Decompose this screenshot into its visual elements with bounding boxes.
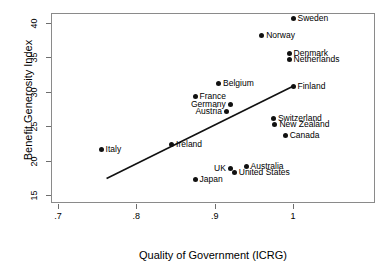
data-point-label: Italy: [106, 145, 122, 154]
data-point-label: United States: [239, 168, 290, 177]
data-point-label: Sweden: [298, 14, 329, 23]
data-point-label: Japan: [200, 175, 223, 184]
x-tick-mark: [136, 204, 137, 209]
x-tick-label: .9: [203, 211, 227, 221]
data-point: [291, 84, 296, 89]
y-tick-mark: [46, 161, 51, 162]
data-point: [232, 170, 237, 175]
data-point: [287, 57, 292, 62]
x-tick-label: .8: [124, 211, 148, 221]
data-point: [224, 109, 229, 114]
data-point-label: Norway: [266, 31, 295, 40]
y-tick-label: 40: [29, 13, 40, 35]
data-point: [228, 102, 233, 107]
x-tick-mark: [293, 204, 294, 209]
data-point-label: Ireland: [176, 140, 202, 149]
x-axis-title: Quality of Government (ICRG): [51, 249, 375, 261]
data-point: [99, 147, 104, 152]
data-point-label: UK: [214, 164, 226, 173]
data-point-label: Canada: [290, 131, 320, 140]
y-tick-label: 25: [29, 116, 40, 138]
y-tick-label: 35: [29, 47, 40, 69]
x-tick-mark: [215, 204, 216, 209]
data-point-label: Belgium: [223, 79, 254, 88]
y-tick-label: 15: [29, 185, 40, 207]
data-point: [193, 177, 198, 182]
x-tick-label: 1: [281, 211, 305, 221]
y-tick-mark: [46, 23, 51, 24]
y-tick-mark: [46, 57, 51, 58]
y-tick-label: 30: [29, 81, 40, 103]
x-tick-label: .7: [46, 211, 70, 221]
y-tick-mark: [46, 195, 51, 196]
data-point-label: New Zealand: [279, 120, 329, 129]
data-point: [291, 16, 296, 21]
scatter-plot-figure: Benefit Generosity Index Quality of Gove…: [0, 0, 390, 277]
y-tick-mark: [46, 126, 51, 127]
y-tick-label: 20: [29, 150, 40, 172]
data-point-label: Austria: [195, 107, 221, 116]
data-point-label: Netherlands: [294, 55, 340, 64]
data-point-label: Finland: [298, 82, 326, 91]
x-tick-mark: [58, 204, 59, 209]
y-tick-mark: [46, 92, 51, 93]
